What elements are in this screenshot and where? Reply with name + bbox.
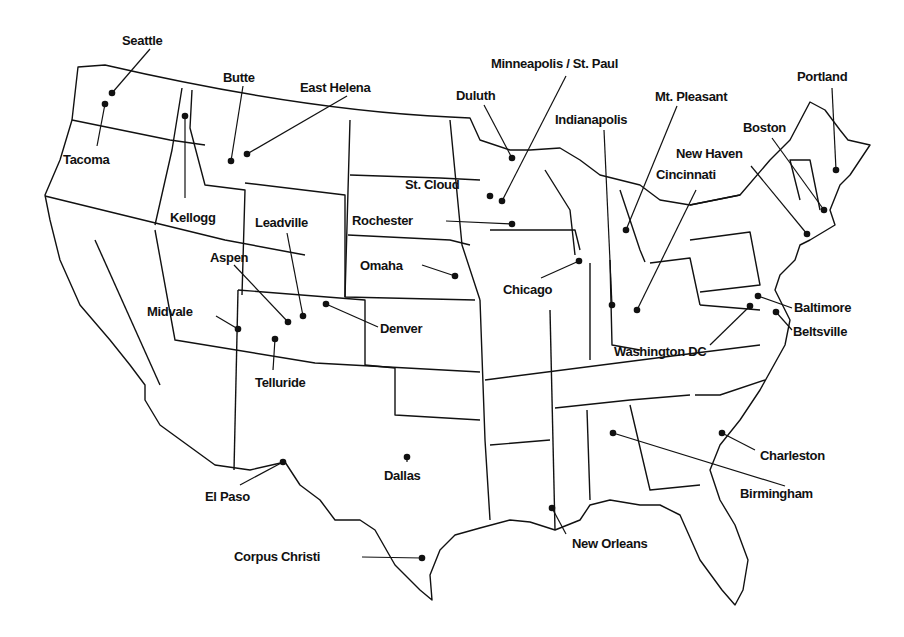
city-label-seattle: Seattle: [122, 33, 163, 48]
city-label-rochester: Rochester: [352, 213, 413, 228]
city-label-butte: Butte: [223, 70, 255, 85]
city-label-new-haven: New Haven: [676, 146, 743, 161]
leader-line-new-haven: [751, 166, 807, 234]
leader-line-new-orleans: [552, 508, 566, 534]
city-dot-charleston: [719, 430, 726, 437]
city-dot-denver: [323, 301, 330, 308]
city-dot-minneapolis-st-paul: [499, 198, 506, 205]
city-label-tacoma: Tacoma: [63, 152, 109, 167]
leader-line-boston: [772, 138, 824, 210]
city-dot-st-cloud: [487, 193, 494, 200]
leader-line-duluth: [484, 105, 512, 158]
leader-line-corpus-christi: [362, 557, 422, 558]
city-label-omaha: Omaha: [360, 258, 403, 273]
leader-line-omaha: [422, 265, 455, 276]
leader-line-rochester: [446, 221, 512, 224]
leader-line-tacoma: [97, 104, 105, 146]
city-dot-tacoma: [102, 101, 109, 108]
leader-line-el-paso: [240, 462, 283, 485]
city-dot-portland: [833, 167, 840, 174]
city-label-new-orleans: New Orleans: [572, 536, 647, 551]
city-label-kellogg: Kellogg: [170, 210, 216, 225]
city-label-baltimore: Baltimore: [794, 300, 851, 315]
leader-line-indianapolis: [604, 130, 612, 305]
leader-line-cincinnati: [637, 190, 696, 310]
city-dot-boston: [821, 207, 828, 214]
city-dot-el-paso: [280, 459, 287, 466]
city-dot-indianapolis: [609, 302, 616, 309]
city-dot-east-helena: [244, 151, 251, 158]
city-dot-butte: [228, 158, 235, 165]
city-label-portland: Portland: [797, 69, 847, 84]
city-dot-cincinnati: [634, 307, 641, 314]
city-label-boston: Boston: [743, 120, 786, 135]
city-dot-kellogg: [182, 113, 189, 120]
city-dot-leadville: [300, 313, 307, 320]
city-label-east-helena: East Helena: [300, 80, 370, 95]
city-dot-birmingham: [610, 430, 617, 437]
city-dot-telluride: [272, 336, 279, 343]
city-label-telluride: Telluride: [255, 375, 306, 390]
city-label-birmingham: Birmingham: [740, 486, 813, 501]
leader-line-portland: [832, 88, 836, 170]
city-dot-seattle: [109, 90, 116, 97]
city-label-dallas: Dallas: [384, 468, 421, 483]
leader-line-chicago: [541, 261, 579, 278]
city-dot-new-haven: [804, 231, 811, 238]
city-label-charleston: Charleston: [760, 448, 825, 463]
city-dot-aspen: [285, 319, 292, 326]
leader-line-beltsville: [776, 312, 792, 330]
leader-line-midvale: [216, 316, 238, 329]
leader-line-washington-dc: [710, 306, 750, 345]
city-dot-duluth: [509, 155, 516, 162]
leader-line-east-helena: [247, 96, 347, 154]
city-label-washington-dc: Washington DC: [614, 344, 706, 359]
leader-line-telluride: [273, 339, 275, 370]
city-dot-new-orleans: [549, 505, 556, 512]
city-dot-chicago: [576, 258, 583, 265]
city-dot-washington-dc: [747, 303, 754, 310]
city-label-indianapolis: Indianapolis: [555, 112, 627, 127]
city-dot-mt-pleasant: [623, 227, 630, 234]
city-label-mt-pleasant: Mt. Pleasant: [655, 89, 727, 104]
city-label-beltsville: Beltsville: [793, 324, 847, 339]
leader-line-aspen: [234, 265, 288, 322]
leader-line-seattle: [112, 49, 150, 93]
city-dot-beltsville: [773, 309, 780, 316]
city-label-cincinnati: Cincinnati: [656, 167, 716, 182]
city-dot-dallas: [404, 454, 411, 461]
city-label-denver: Denver: [380, 321, 422, 336]
city-dot-rochester: [509, 221, 516, 228]
us-map: SeattleTacomaKelloggButteEast HelenaLead…: [0, 0, 904, 637]
city-label-el-paso: El Paso: [205, 489, 250, 504]
city-label-st-cloud: St. Cloud: [405, 177, 459, 192]
leader-line-leadville: [287, 233, 303, 316]
leader-line-minneapolis-st-paul: [502, 76, 566, 201]
city-label-midvale: Midvale: [147, 304, 193, 319]
city-dot-corpus-christi: [419, 555, 426, 562]
city-label-chicago: Chicago: [503, 282, 552, 297]
leader-line-butte: [231, 86, 243, 161]
city-label-aspen: Aspen: [210, 250, 248, 265]
leader-line-baltimore: [758, 296, 792, 308]
city-label-minneapolis-st-paul: Minneapolis / St. Paul: [491, 56, 618, 71]
city-label-corpus-christi: Corpus Christi: [234, 549, 320, 564]
leader-line-charleston: [722, 433, 755, 450]
leader-line-denver: [326, 304, 378, 327]
city-dot-baltimore: [755, 293, 762, 300]
city-label-duluth: Duluth: [456, 88, 495, 103]
city-dot-omaha: [452, 273, 459, 280]
city-markers: [0, 0, 904, 637]
city-dot-midvale: [235, 326, 242, 333]
city-label-leadville: Leadville: [255, 215, 308, 230]
